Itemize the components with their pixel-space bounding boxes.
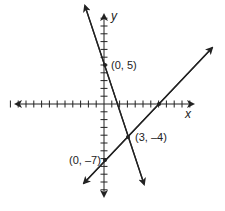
point-0-5 (103, 63, 107, 67)
rising-line (84, 48, 212, 183)
point-3-neg4 (126, 135, 130, 139)
point-x-intercept (157, 102, 161, 106)
coordinate-graph: (0, 5) (3, –4) (0, –7) y x (0, 0, 225, 211)
point-0-neg7 (103, 158, 107, 162)
label-3-neg4: (3, –4) (135, 131, 167, 143)
y-axis-label: y (110, 9, 118, 23)
label-0-5: (0, 5) (111, 59, 137, 71)
label-0-neg7: (0, –7) (69, 154, 101, 166)
x-axis-label: x (184, 107, 192, 121)
